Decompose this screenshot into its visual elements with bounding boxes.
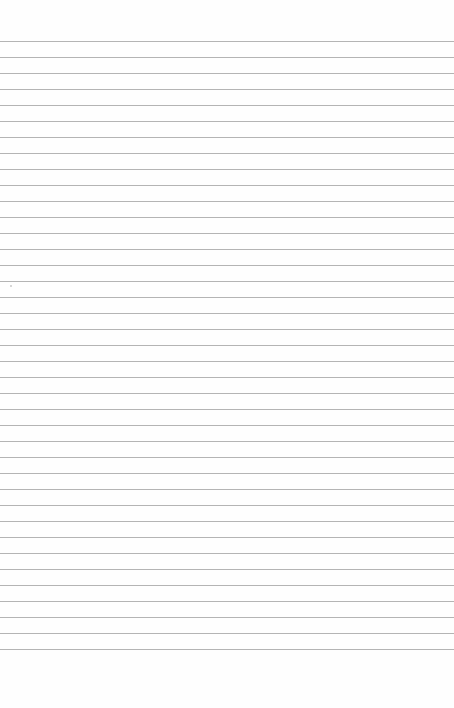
ruled-line xyxy=(0,281,454,282)
paper-speck xyxy=(10,285,12,287)
ruled-line xyxy=(0,73,454,74)
ruled-line xyxy=(0,41,454,42)
ruled-line xyxy=(0,137,454,138)
ruled-line xyxy=(0,585,454,586)
ruled-line xyxy=(0,537,454,538)
ruled-line xyxy=(0,505,454,506)
ruled-line xyxy=(0,489,454,490)
ruled-line xyxy=(0,121,454,122)
ruled-line xyxy=(0,377,454,378)
ruled-line xyxy=(0,345,454,346)
ruled-line xyxy=(0,105,454,106)
ruled-line xyxy=(0,217,454,218)
ruled-line xyxy=(0,521,454,522)
ruled-line xyxy=(0,153,454,154)
ruled-line xyxy=(0,329,454,330)
ruled-line xyxy=(0,393,454,394)
ruled-line xyxy=(0,361,454,362)
ruled-line xyxy=(0,473,454,474)
ruled-line xyxy=(0,169,454,170)
ruled-line xyxy=(0,553,454,554)
ruled-line xyxy=(0,425,454,426)
ruled-line xyxy=(0,265,454,266)
ruled-line xyxy=(0,249,454,250)
ruled-line xyxy=(0,185,454,186)
ruled-line xyxy=(0,633,454,634)
ruled-line xyxy=(0,569,454,570)
ruled-line xyxy=(0,457,454,458)
ruled-line xyxy=(0,601,454,602)
ruled-paper-page xyxy=(0,0,454,708)
ruled-line xyxy=(0,617,454,618)
ruled-line xyxy=(0,649,454,650)
ruled-line xyxy=(0,409,454,410)
ruled-line xyxy=(0,441,454,442)
ruled-line xyxy=(0,89,454,90)
ruled-line xyxy=(0,201,454,202)
ruled-line xyxy=(0,233,454,234)
ruled-line xyxy=(0,297,454,298)
ruled-line xyxy=(0,313,454,314)
ruled-line xyxy=(0,57,454,58)
